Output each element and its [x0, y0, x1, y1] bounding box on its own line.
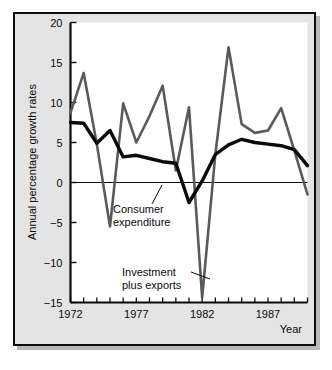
- y-tick-label: 5: [56, 137, 62, 149]
- plot-area: [71, 23, 308, 303]
- y-tick-label: 10: [50, 97, 62, 109]
- y-tick-label: 20: [50, 17, 62, 29]
- y-tick-label: 15: [50, 57, 62, 69]
- y-tick-label: −10: [44, 257, 63, 269]
- y-axis-title: Annual percentage growth rates: [26, 84, 38, 240]
- y-tick-label: −5: [50, 217, 63, 229]
- x-axis-title: Year: [280, 323, 303, 335]
- y-tick-label: 0: [56, 177, 62, 189]
- annotation-label: Investment: [122, 266, 176, 278]
- annotation-label: plus exports: [122, 279, 182, 291]
- line-chart: 20151050−5−10−151972197719821987 Consume…: [0, 0, 332, 370]
- annotation-label: expenditure: [113, 216, 171, 228]
- annotation-label: Consumer: [113, 203, 164, 215]
- plot-background: [71, 23, 308, 303]
- chart-figure: 20151050−5−10−151972197719821987 Consume…: [0, 0, 332, 370]
- x-tick-label: 1977: [124, 308, 148, 320]
- x-tick-label: 1982: [190, 308, 214, 320]
- x-tick-label: 1972: [58, 308, 82, 320]
- x-tick-label: 1987: [256, 308, 280, 320]
